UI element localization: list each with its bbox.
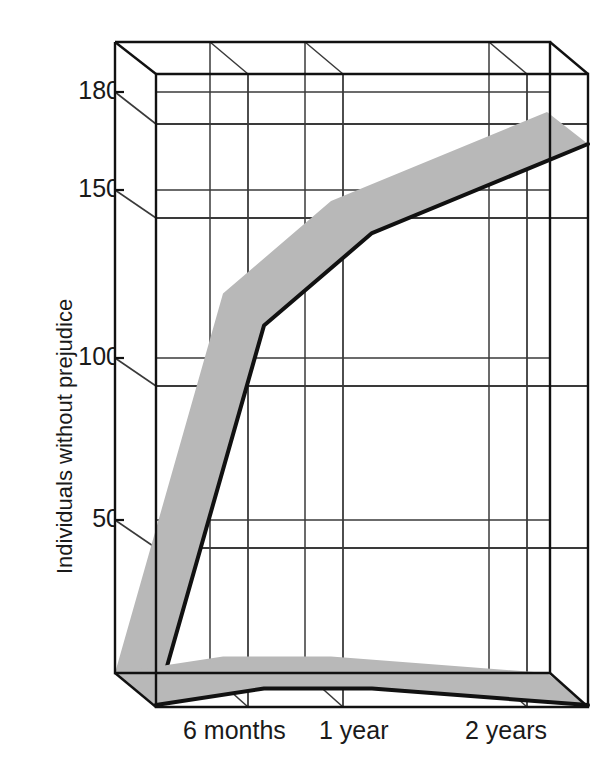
plot-area	[0, 0, 615, 778]
chart-figure: Individuals without prejudice 180 150 10…	[0, 0, 615, 778]
